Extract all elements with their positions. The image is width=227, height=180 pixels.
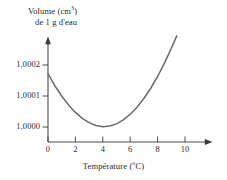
y-axis-arrowhead [45,37,51,45]
y-axis-title-text: Volume (cm [28,6,71,16]
x-axis-title: Température (oC) [0,161,227,172]
volume-of-water-chart: Volume (cm3) de 1 g d'eau Température (o… [0,0,227,180]
y-tick-label-1.0000: 1,0000 [0,122,40,131]
y-axis-title-close: ) [74,6,77,16]
x-axis-title-text: Température ( [83,161,133,171]
x-tick-label-6: 6 [120,145,140,154]
x-axis-arrowhead [205,139,213,145]
x-tick-label-2: 2 [65,145,85,154]
x-tick-label-0: 0 [38,145,58,154]
x-axis-title-close: C) [135,161,144,171]
x-tick-label-8: 8 [148,145,168,154]
volume-curve [48,36,177,127]
y-tick-label-1.0002: 1,0002 [0,60,40,69]
y-axis-title-line2: de 1 g d'eau [28,17,77,28]
y-axis-title: Volume (cm3) de 1 g d'eau [28,6,77,27]
x-tick-label-10: 10 [175,145,195,154]
x-tick-label-4: 4 [93,145,113,154]
y-tick-label-1.0001: 1,0001 [0,91,40,100]
